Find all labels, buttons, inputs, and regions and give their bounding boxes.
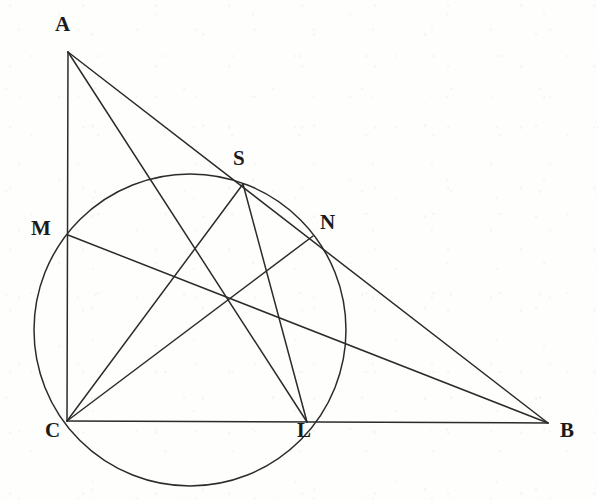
vertex-label-L: L — [297, 420, 311, 441]
geometry-figure: A B C M S N L — [0, 0, 598, 500]
segment-AC — [67, 52, 68, 421]
vertex-label-N: N — [320, 212, 335, 233]
vertex-label-M: M — [31, 218, 51, 239]
segment-MB — [68, 235, 548, 423]
vertex-label-S: S — [233, 148, 245, 169]
segment-AL — [68, 52, 307, 422]
segment-SL — [243, 184, 307, 422]
segment-CS — [67, 184, 243, 421]
vertex-label-A: A — [55, 14, 70, 35]
segment-CN — [67, 236, 313, 421]
segment-MN — [68, 235, 313, 236]
segment-group — [67, 52, 548, 423]
vertex-label-B: B — [560, 420, 574, 441]
vertex-label-C: C — [45, 420, 60, 441]
segment-AB — [68, 52, 548, 423]
